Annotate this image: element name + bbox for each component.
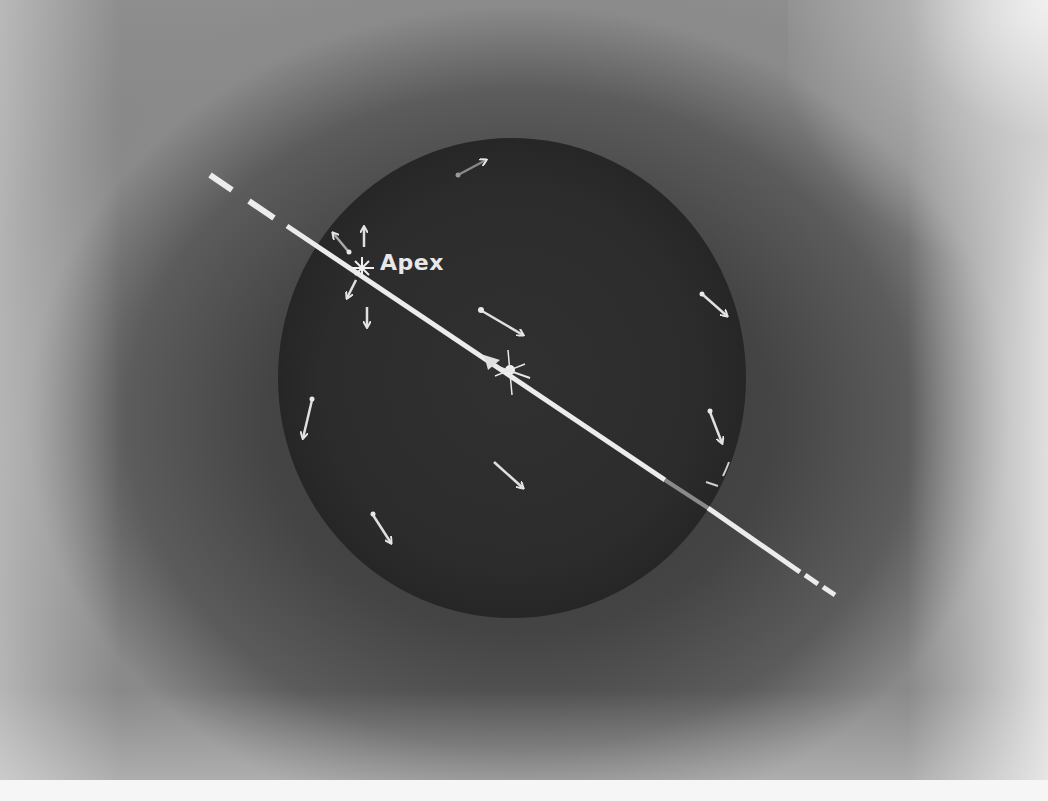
celestial-sphere-figure: Apex — [0, 0, 1048, 801]
diagram-svg — [0, 0, 1048, 801]
apex-label: Apex — [380, 250, 444, 275]
